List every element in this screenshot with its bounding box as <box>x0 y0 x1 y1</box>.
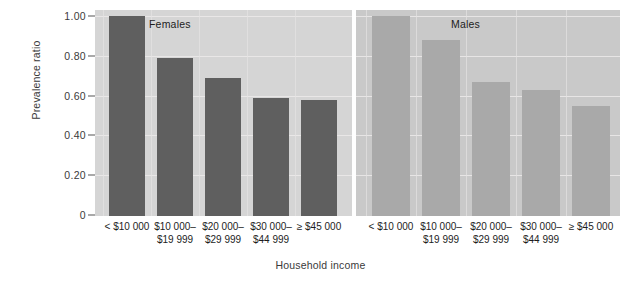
vertical-gridline <box>516 10 517 216</box>
y-axis-tick-label: 0.40 <box>38 130 86 141</box>
prevalence-ratio-bar-chart: Prevalence ratio Females Males 00.200.40… <box>0 0 641 284</box>
bar <box>522 90 560 216</box>
x-axis-tick-label: ≥ $45 000 <box>283 221 355 234</box>
y-axis-tick-label: 0.80 <box>38 51 86 62</box>
y-axis-tick-mark <box>88 95 95 96</box>
y-axis-tick-label: 1.00 <box>38 11 86 22</box>
y-axis-tick-mark <box>88 135 95 136</box>
vertical-gridline <box>199 10 200 216</box>
bar <box>372 16 410 216</box>
vertical-gridline <box>295 10 296 216</box>
panel-males <box>356 10 620 216</box>
vertical-gridline <box>416 10 417 216</box>
y-axis-tick-mark <box>88 175 95 176</box>
vertical-gridline <box>151 10 152 216</box>
bar <box>205 78 241 216</box>
panel-title-males: Males <box>451 18 480 30</box>
vertical-gridline <box>366 10 367 216</box>
bar <box>253 98 289 216</box>
bar <box>472 82 510 216</box>
y-axis-tick-mark <box>88 16 95 17</box>
bar <box>157 58 193 216</box>
bar <box>572 106 610 216</box>
x-axis-tick-label: ≥ $45 000 <box>555 221 627 234</box>
vertical-gridline <box>247 10 248 216</box>
vertical-gridline <box>103 10 104 216</box>
panel-females <box>95 10 352 216</box>
bar <box>422 40 460 216</box>
bar <box>301 100 337 216</box>
panel-divider <box>352 10 356 216</box>
panel-title-females: Females <box>149 18 191 30</box>
y-axis-tick-mark <box>88 215 95 216</box>
y-axis-tick-label: 0 <box>38 210 86 221</box>
x-axis-title: Household income <box>0 259 641 271</box>
y-axis-tick-mark <box>88 55 95 56</box>
bar <box>109 16 145 216</box>
y-axis-tick-label: 0.20 <box>38 170 86 181</box>
y-axis-tick-label: 0.60 <box>38 90 86 101</box>
vertical-gridline <box>566 10 567 216</box>
vertical-gridline <box>466 10 467 216</box>
